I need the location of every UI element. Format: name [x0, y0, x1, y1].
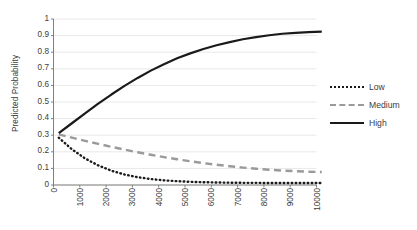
- legend-line-dashed-icon: [330, 100, 364, 110]
- legend-item-low: Low: [330, 78, 417, 96]
- series-line-high: [59, 32, 322, 134]
- chart-figure: Predicted Probability 00.10.20.30.40.50.…: [0, 0, 417, 230]
- legend-line-solid-icon: [330, 118, 364, 128]
- legend-item-medium: Medium: [330, 96, 417, 114]
- chart-legend: Low Medium High: [330, 78, 417, 132]
- legend-label-high: High: [369, 118, 387, 128]
- x-tick-label: 10000: [313, 188, 353, 198]
- legend-item-high: High: [330, 114, 417, 132]
- legend-label-medium: Medium: [369, 100, 400, 110]
- legend-line-dotted-icon: [330, 82, 364, 92]
- legend-label-low: Low: [369, 82, 385, 92]
